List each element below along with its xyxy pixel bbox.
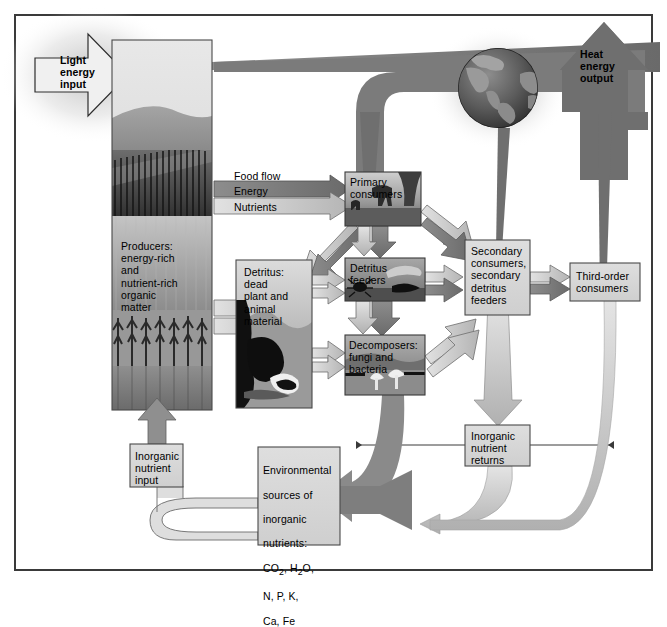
env-h2o-post: O, [303, 562, 314, 574]
env-co2: CO [263, 562, 279, 574]
env-line-cafe: Ca, Fe [263, 615, 295, 627]
env-h2o-pre: , H [284, 562, 298, 574]
legend-label-nutrients: Nutrients [234, 201, 277, 213]
env-line-3: inorganic [263, 513, 307, 525]
legend-label-food-flow: Food flow [234, 170, 280, 182]
env-line-2: sources of [263, 489, 312, 501]
detritus-label: Detritus: dead plant and animal material [244, 266, 310, 327]
env-line-npk: N, P, K, [263, 590, 299, 602]
producers-label: Producers: energy-rich and nutrient-rich… [121, 240, 213, 313]
secondary-consumers-label: Secondary consumers, secondary detritus … [471, 245, 531, 306]
light-energy-input-label: Light energy input [60, 54, 118, 91]
curve-stub-to-input [157, 486, 183, 498]
third-order-consumers-label: Third-order consumers [576, 270, 642, 294]
primary-consumers-label: Primary consumers [350, 176, 420, 200]
arrow-shaft-into-environmental-sources [340, 486, 412, 514]
producers-photo [112, 40, 212, 410]
detritus-feeders-label: Detritus feeders [350, 262, 420, 286]
heat-energy-output-label: Heat energy output [580, 48, 640, 85]
env-line-4: nutrients: [263, 537, 307, 549]
decomposers-label: Decomposers: fungi and bacteria [349, 339, 427, 376]
legend-label-energy: Energy [234, 185, 268, 197]
inorganic-nutrient-returns-label: Inorganic nutrient returns [471, 430, 531, 467]
inorganic-nutrient-input-label: Inorganic nutrient input [135, 450, 185, 487]
environmental-sources-label: Environmental sources of inorganic nutri… [263, 452, 341, 627]
env-line-1: Environmental [263, 464, 331, 476]
